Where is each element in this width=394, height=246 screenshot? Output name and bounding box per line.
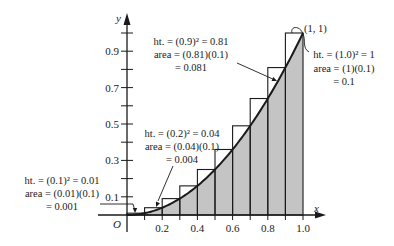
x-axis-label: x: [313, 202, 319, 214]
annotation-rect10: ht. = (1.0)² = 1 area = (1)(0.1) = 0.1: [313, 49, 375, 87]
x-tick-label: 0.6: [226, 222, 240, 234]
y-tick-label: 0.3: [105, 154, 119, 166]
y-tick-label: 0.7: [105, 82, 119, 94]
y-axis-arrow-icon: [124, 13, 131, 25]
annotation-line: = 0.004: [166, 154, 199, 165]
annotation-line: area = (0.04)(0.1): [145, 141, 220, 153]
x-axis-ticks: 0.20.40.60.81.0: [145, 215, 311, 234]
annotation-line: = 0.001: [46, 201, 78, 212]
x-tick-label: 0.2: [155, 222, 169, 234]
annotation-line: ht. = (1.0)² = 1: [313, 49, 375, 61]
leader-rect10: [303, 34, 309, 52]
annotation-rect1: ht. = (0.1)² = 0.01 area = (0.01)(0.1) =…: [25, 175, 100, 212]
arrowhead-icon: [156, 202, 160, 207]
x-tick-label: 0.8: [261, 222, 275, 234]
annotation-line: area = (0.01)(0.1): [25, 188, 100, 200]
point-label: (1, 1): [304, 23, 327, 35]
x-tick-label: 0.4: [191, 222, 205, 234]
annotation-line: area = (0.81)(0.1): [154, 49, 229, 61]
annotation-line: area = (1)(0.1): [313, 63, 375, 75]
annotation-line: ht. = (0.9)² = 0.81: [154, 36, 229, 48]
leader-rect1: [100, 204, 135, 211]
y-axis-ticks: 0.10.30.50.70.9: [105, 33, 133, 203]
x-tick-label: 1.0: [296, 222, 310, 234]
origin-label: O: [113, 218, 121, 230]
y-tick-label: 0.1: [105, 191, 119, 203]
y-axis-label: y: [115, 12, 121, 24]
riemann-sum-chart: 0.20.40.60.81.0 0.10.30.50.70.9 x y O (1…: [0, 0, 394, 246]
arrowhead-icon: [133, 208, 137, 213]
annotation-line: ht. = (0.1)² = 0.01: [25, 175, 100, 187]
annotation-rect2: ht. = (0.2)² = 0.04 area = (0.04)(0.1) =…: [145, 128, 221, 165]
y-tick-label: 0.5: [105, 118, 119, 130]
annotation-line: = 0.081: [175, 62, 207, 73]
annotation-rect9: ht. = (0.9)² = 0.81 area = (0.81)(0.1) =…: [154, 36, 229, 73]
leader-rect2: [158, 166, 173, 201]
y-tick-label: 0.9: [105, 45, 119, 57]
annotation-line: = 0.1: [333, 76, 355, 87]
annotation-line: ht. = (0.2)² = 0.04: [145, 128, 221, 140]
